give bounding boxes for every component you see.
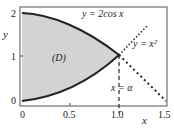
xtick-label-0: 0 — [20, 109, 25, 120]
y-axis-label: y — [2, 28, 8, 40]
ytick-label-0: 0 — [11, 95, 16, 106]
xtick-label-10: 1.0 — [111, 109, 124, 120]
ytick-label-2: 2 — [11, 8, 16, 19]
parabola-label: y = x² — [132, 38, 158, 49]
xtick-label-05: 0.5 — [63, 109, 76, 120]
x-axis-label: x — [141, 114, 147, 126]
ytick-label-1: 1 — [11, 51, 16, 62]
chart: y = 2cos x y = x² (D) x = α y x 2 1 0 0 … — [0, 0, 174, 129]
cos-label: y = 2cos x — [81, 8, 124, 19]
xtick-label-15: 1.5 — [158, 109, 171, 120]
alpha-label: x = α — [110, 82, 133, 93]
region-label: (D) — [52, 52, 67, 64]
cos-dotted — [119, 55, 166, 101]
